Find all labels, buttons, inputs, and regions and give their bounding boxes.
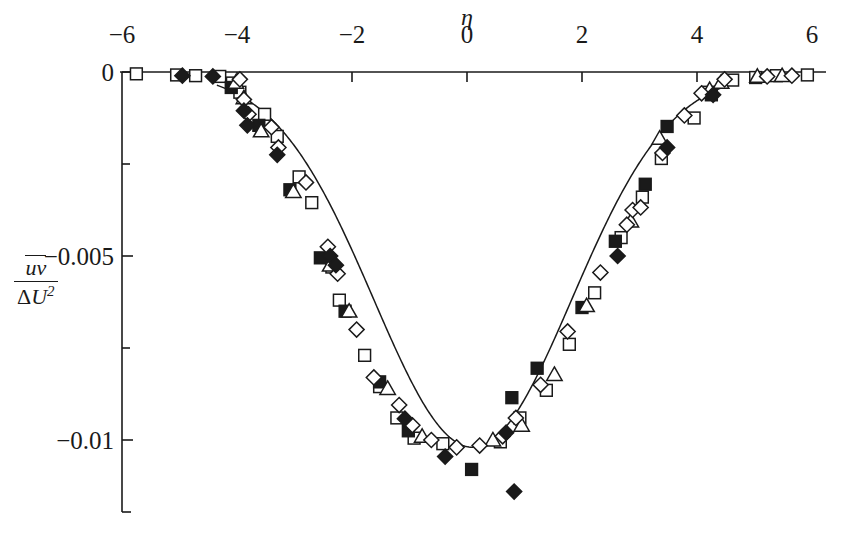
- delta-symbol: Δ: [17, 285, 31, 310]
- x-tick-label--2: −2: [339, 22, 366, 47]
- y-tick-label-0: 0: [102, 60, 115, 85]
- marker-open-square: [802, 69, 814, 81]
- x-tick-label-6: 6: [806, 22, 819, 47]
- marker-filled-square: [609, 235, 621, 247]
- figure-container: η uv ΔU2 −6−4−202460−0.005−0.01: [0, 0, 844, 555]
- x-tick-label--4: −4: [224, 22, 251, 47]
- marker-open-square: [259, 108, 271, 120]
- y-tick-label--0_005: −0.005: [44, 244, 114, 269]
- marker-open-diamond: [472, 438, 487, 453]
- marker-filled-diamond: [438, 449, 453, 464]
- x-tick-label--6: −6: [109, 22, 136, 47]
- marker-open-square: [563, 338, 575, 350]
- marker-open-triangle: [547, 367, 562, 380]
- marker-open-diamond: [593, 265, 608, 280]
- y-axis-denominator: ΔU2: [14, 282, 58, 309]
- data-markers-group: [130, 68, 813, 499]
- marker-open-square: [589, 287, 601, 299]
- marker-filled-square: [506, 392, 518, 404]
- marker-open-square: [359, 349, 371, 361]
- marker-filled-square: [639, 178, 651, 190]
- x-tick-label-0: 0: [461, 22, 474, 47]
- exponent-2: 2: [47, 283, 54, 299]
- marker-filled-diamond: [610, 248, 625, 263]
- fit-curve-path: [217, 85, 729, 447]
- marker-open-diamond: [392, 397, 407, 412]
- marker-open-square: [306, 197, 318, 209]
- marker-filled-square: [531, 362, 543, 374]
- marker-open-diamond: [560, 324, 575, 339]
- marker-filled-square: [661, 121, 673, 133]
- plot-canvas: [0, 0, 844, 555]
- marker-filled-diamond: [507, 484, 522, 499]
- marker-filled-square: [466, 464, 478, 476]
- x-tick-label-2: 2: [576, 22, 589, 47]
- marker-open-square: [190, 70, 202, 82]
- marker-open-diamond: [449, 440, 464, 455]
- fit-curve: [217, 85, 729, 447]
- marker-open-diamond: [349, 322, 364, 337]
- marker-open-square: [333, 294, 345, 306]
- y-tick-label--0_01: −0.01: [56, 428, 114, 453]
- x-tick-label-4: 4: [691, 22, 704, 47]
- marker-open-square: [130, 68, 142, 80]
- u-symbol: U: [31, 285, 47, 310]
